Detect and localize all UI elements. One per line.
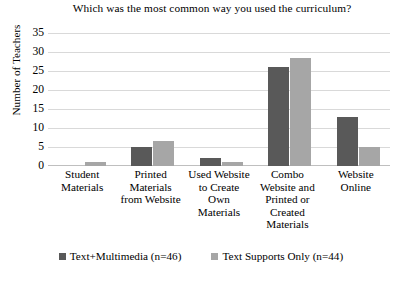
- y-tick-label: 35: [4, 27, 44, 39]
- x-category-label: WebsiteOnline: [322, 168, 390, 193]
- y-tick-label: 5: [4, 141, 44, 153]
- x-category-label-line: Materials: [48, 181, 116, 194]
- x-category-label-line: Website and: [253, 181, 321, 194]
- bar-group: [116, 33, 184, 166]
- x-category-label-line: Materials: [116, 181, 184, 194]
- bar[interactable]: [200, 158, 221, 166]
- bar[interactable]: [359, 147, 380, 166]
- x-category-label-line: Materials: [185, 206, 253, 219]
- x-category-label-line: from Website: [116, 193, 184, 206]
- bar-chart-figure: Which was the most common way you used t…: [0, 0, 402, 281]
- bar-group: [253, 33, 321, 166]
- bar[interactable]: [290, 58, 311, 166]
- bar[interactable]: [85, 162, 106, 166]
- x-category-label-line: Materials: [253, 218, 321, 231]
- x-category-label: ComboWebsite andPrinted orCreatedMateria…: [253, 168, 321, 231]
- legend-item[interactable]: Text Supports Only (n=44): [211, 250, 343, 262]
- x-category-label-line: to Create: [185, 181, 253, 194]
- x-category-label-line: Online: [322, 181, 390, 194]
- y-axis-tick-labels: 35302520151050: [0, 33, 44, 166]
- bar[interactable]: [153, 141, 174, 166]
- legend-item[interactable]: Text+Multimedia (n=46): [59, 250, 182, 262]
- legend-label: Text+Multimedia (n=46): [70, 250, 182, 262]
- chart-title: Which was the most common way you used t…: [52, 2, 372, 15]
- x-axis-category-labels: StudentMaterialsPrintedMaterialsfrom Web…: [48, 168, 390, 246]
- x-category-label-line: Own: [185, 193, 253, 206]
- y-tick-label: 15: [4, 103, 44, 115]
- legend-label: Text Supports Only (n=44): [222, 250, 343, 262]
- x-category-label-line: Created: [253, 206, 321, 219]
- y-tick-label: 0: [4, 160, 44, 172]
- x-category-label-line: Combo: [253, 168, 321, 181]
- x-category-label-line: Website: [322, 168, 390, 181]
- bar-group: [48, 33, 116, 166]
- bar-group: [185, 33, 253, 166]
- x-category-label: PrintedMaterialsfrom Website: [116, 168, 184, 206]
- legend-swatch-icon: [59, 253, 66, 260]
- chart-legend: Text+Multimedia (n=46)Text Supports Only…: [0, 250, 402, 262]
- y-tick-label: 10: [4, 122, 44, 134]
- legend-swatch-icon: [211, 253, 218, 260]
- x-category-label: Used Websiteto CreateOwnMaterials: [185, 168, 253, 218]
- bar[interactable]: [337, 117, 358, 166]
- bar[interactable]: [268, 67, 289, 166]
- y-tick-label: 20: [4, 84, 44, 96]
- y-tick-label: 25: [4, 65, 44, 77]
- x-category-label-line: Used Website: [185, 168, 253, 181]
- x-category-label-line: Printed or: [253, 193, 321, 206]
- bars-layer: [48, 33, 390, 166]
- x-category-label-line: Student: [48, 168, 116, 181]
- x-category-label-line: Printed: [116, 168, 184, 181]
- bar-group: [322, 33, 390, 166]
- bar[interactable]: [222, 162, 243, 166]
- y-tick-label: 30: [4, 46, 44, 58]
- bar[interactable]: [131, 147, 152, 166]
- x-category-label: StudentMaterials: [48, 168, 116, 193]
